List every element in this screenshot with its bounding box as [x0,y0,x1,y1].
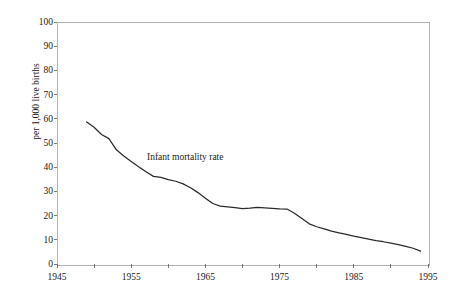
infant-mortality-rate-line [87,122,421,251]
x-axis-tickmarks [57,264,428,268]
infant-mortality-chart-figure: per 1,000 live births 010203040506070809… [0,0,453,301]
plot-canvas [0,0,453,301]
y-axis-tickmarks [54,22,58,264]
series-annotation-label: Infant mortality rate [147,152,224,163]
